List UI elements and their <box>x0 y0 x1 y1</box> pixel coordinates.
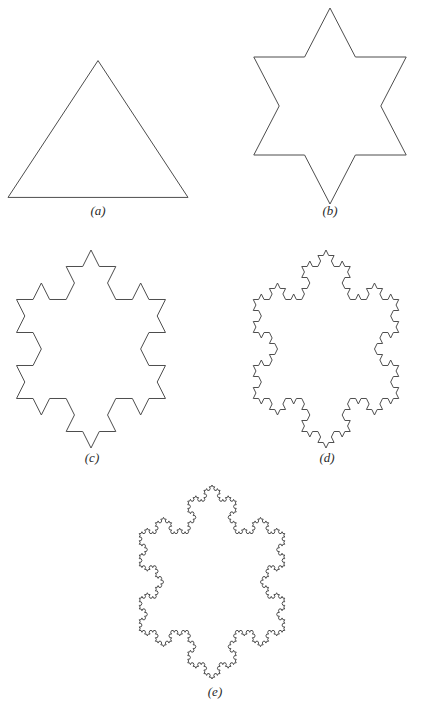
koch-curve-path <box>139 485 284 679</box>
panel-c-label: (c) <box>52 450 132 466</box>
panel-e-snowflake <box>128 485 296 679</box>
koch-iteration-0-svg <box>8 50 188 208</box>
koch-iteration-1-svg <box>242 8 418 204</box>
panel-d-label: (d) <box>287 450 367 466</box>
koch-curve-path <box>254 8 406 204</box>
panel-d-snowflake <box>242 250 410 448</box>
panel-b-label-text: (b) <box>322 203 337 218</box>
panel-e-label-text: (e) <box>208 684 222 699</box>
panel-b-label: (b) <box>290 203 370 219</box>
koch-curve-path <box>17 250 166 448</box>
koch-curve-path <box>253 250 398 448</box>
koch-iteration-2-svg <box>5 250 177 448</box>
panel-a-label: (a) <box>58 203 138 219</box>
panel-a-label-text: (a) <box>90 203 105 218</box>
koch-iteration-4-svg <box>128 485 296 679</box>
panel-c-label-text: (c) <box>85 450 99 465</box>
koch-curve-path <box>8 61 188 198</box>
panel-b-star <box>242 8 418 204</box>
panel-a-triangle <box>8 50 188 208</box>
panel-c-snowflake <box>5 250 177 448</box>
koch-snowflake-figure: (a) (b) (c) (d) (e) <box>0 0 424 711</box>
panel-e-label: (e) <box>175 684 255 700</box>
panel-d-label-text: (d) <box>319 450 334 465</box>
koch-iteration-3-svg <box>242 250 410 448</box>
